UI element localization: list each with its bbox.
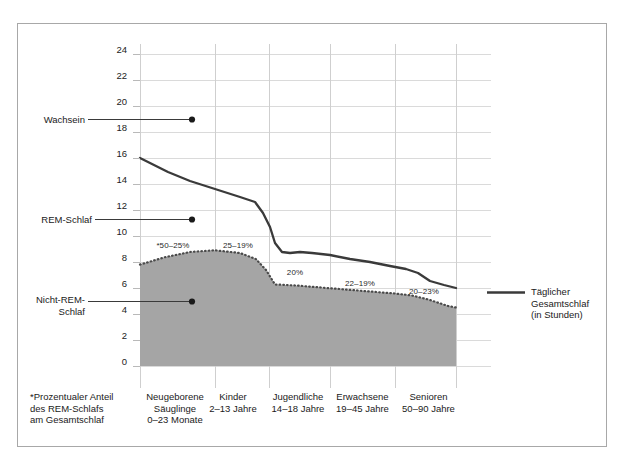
y-tick-22: 22 [101, 71, 127, 81]
y-tick-4: 4 [101, 305, 127, 315]
x-category-kinder: Kinder 2–13 Jahre [204, 391, 262, 414]
annotation-pct-neugeborene: *50–25% [143, 241, 203, 250]
y-tick-16: 16 [101, 149, 127, 159]
y-tick-2: 2 [101, 331, 127, 341]
band-label-nicht-rem-schlaf: Nicht-REM- Schlaf [8, 294, 85, 317]
annotation-pct-jugendliche: 20% [273, 268, 317, 277]
y-tick-8: 8 [101, 253, 127, 263]
band-label-wachsein: Wachsein [8, 114, 85, 126]
legend-label-total-sleep: Täglicher Gesamtschlaf (in Stunden) [531, 286, 606, 321]
y-tick-14: 14 [101, 175, 127, 185]
y-tick-18: 18 [101, 123, 127, 133]
band-pointer-rem-schlaf [95, 216, 195, 222]
y-tick-0: 0 [101, 357, 127, 367]
y-tick-marks [133, 55, 140, 367]
band-label-rem-schlaf: REM-Schlaf [8, 214, 92, 226]
annotation-pct-senioren: 20–23% [397, 287, 451, 296]
band-pointer-wachsein [88, 116, 195, 122]
footnote-rem-share: *Prozentualer Anteil des REM-Schlafs am … [30, 391, 135, 426]
y-tick-24: 24 [101, 45, 127, 55]
x-category-senioren: Senioren 50–90 Jahre [395, 391, 462, 414]
y-tick-12: 12 [101, 201, 127, 211]
y-tick-20: 20 [101, 97, 127, 107]
x-category-jugendliche: Jugendliche 14–18 Jahre [265, 391, 331, 414]
annotation-pct-erwachsene: 22–19% [333, 279, 387, 288]
chart-canvas: 24 22 20 18 16 14 12 10 8 6 4 2 0 Wachse… [0, 0, 625, 461]
y-tick-10: 10 [101, 227, 127, 237]
y-tick-6: 6 [101, 279, 127, 289]
x-category-erwachsene: Erwachsene 19–45 Jahre [329, 391, 396, 414]
annotation-pct-kinder: 25–19% [210, 241, 266, 250]
